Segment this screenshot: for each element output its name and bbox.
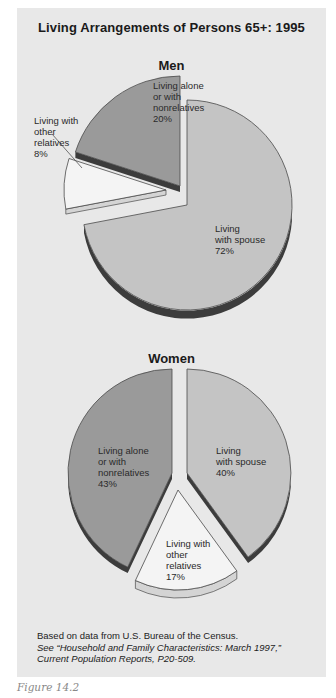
women-alone-label: Living alone or with nonrelatives 43% [98,445,149,489]
women-other-label: Living with other relatives 17% [166,538,210,582]
source-note: Based on data from U.S. Bureau of the Ce… [37,630,327,665]
figure-caption: Figure 14.2 [17,681,79,693]
figure-panel: Living Arrangements of Persons 65+: 1995… [17,8,326,677]
men-spouse-label: Living with spouse 72% [215,223,265,256]
men-alone-label: Living alone or with nonrelatives 20% [153,80,204,124]
men-other-label: Living with other relatives 8% [34,115,78,159]
women-spouse-label: Living with spouse 40% [216,445,266,478]
